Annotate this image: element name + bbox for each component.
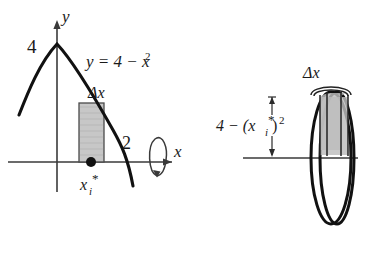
curve-equation-main: y = 4 − x [84,52,150,71]
shell-panel: Δx 4 − (x i * ) 2 [216,64,358,224]
shell-method-figure: 4 y x 2 y = 4 − x 2 Δx x i * [0,0,366,255]
measure-arrowhead-up [269,97,275,104]
height-label-exponent: 2 [279,114,285,126]
shell-shaded-band [320,93,348,155]
x-intercept-label: 2 [122,133,131,153]
height-label-prefix: 4 − (x [216,117,255,135]
approximating-rectangle [79,103,104,162]
delta-x-label-right: Δx [302,64,320,81]
delta-x-label-left: Δx [87,84,105,101]
graph-panel: 4 y x 2 y = 4 − x 2 Δx x i * [8,7,182,197]
figure-root: 4 y x 2 y = 4 − x 2 Δx x i * [0,0,366,255]
sample-point-subscript: i [89,185,92,197]
measure-arrowhead-down [269,149,275,157]
y-axis-label: y [60,7,70,26]
rotation-indicator-icon [150,138,167,176]
y-axis-arrowhead [53,20,60,29]
sample-point-superscript: * [92,171,99,186]
x-axis-label: x [173,142,182,161]
y-intercept-label: 4 [27,36,37,57]
shell-height-label: 4 − (x i * ) 2 [216,112,285,138]
curve-equation-label: y = 4 − x 2 [84,50,151,71]
sample-point-dot [86,157,96,167]
sample-point-base: x [79,176,87,193]
height-label-subscript: i [265,126,268,138]
curve-equation-exponent: 2 [145,50,151,62]
sample-point-label: x i * [79,171,99,197]
x-axis-arrowhead [163,158,172,165]
height-label-suffix: ) [272,117,277,135]
